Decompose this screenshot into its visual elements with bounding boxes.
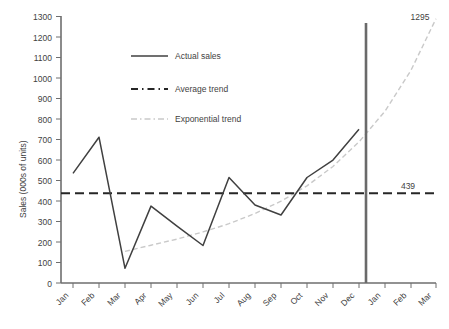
y-tick-label-100: 100 <box>38 258 52 268</box>
y-tick-label-900: 900 <box>38 94 52 104</box>
chart-container: 1300 1200 1100 1000 900 800 700 600 500 … <box>0 0 449 329</box>
sales-forecast-line-chart: 1300 1200 1100 1000 900 800 700 600 500 … <box>0 0 449 329</box>
y-tick-label-1200: 1200 <box>33 33 52 43</box>
y-tick-label-1100: 1100 <box>34 53 53 63</box>
y-tick-label-800: 800 <box>38 115 52 125</box>
annotation-439: 439 <box>401 181 415 191</box>
y-tick-label-200: 200 <box>38 238 52 248</box>
y-tick-label-700: 700 <box>38 135 52 145</box>
y-tick-label-0: 0 <box>47 279 52 289</box>
y-tick-label-300: 300 <box>38 217 52 227</box>
y-tick-label-400: 400 <box>38 197 52 207</box>
y-axis-title: Sales (000s of units) <box>18 140 28 218</box>
y-tick-label-600: 600 <box>38 156 52 166</box>
legend-label-exponential-trend: Exponential trend <box>175 114 241 124</box>
annotation-1295: 1295 <box>411 12 430 22</box>
chart-background <box>0 0 449 329</box>
y-tick-label-1000: 1000 <box>33 74 52 84</box>
y-tick-label-500: 500 <box>38 176 52 186</box>
y-tick-label-1300: 1300 <box>33 12 52 22</box>
legend-label-average-trend: Average trend <box>175 84 229 94</box>
legend-label-actual-sales: Actual sales <box>175 51 221 61</box>
